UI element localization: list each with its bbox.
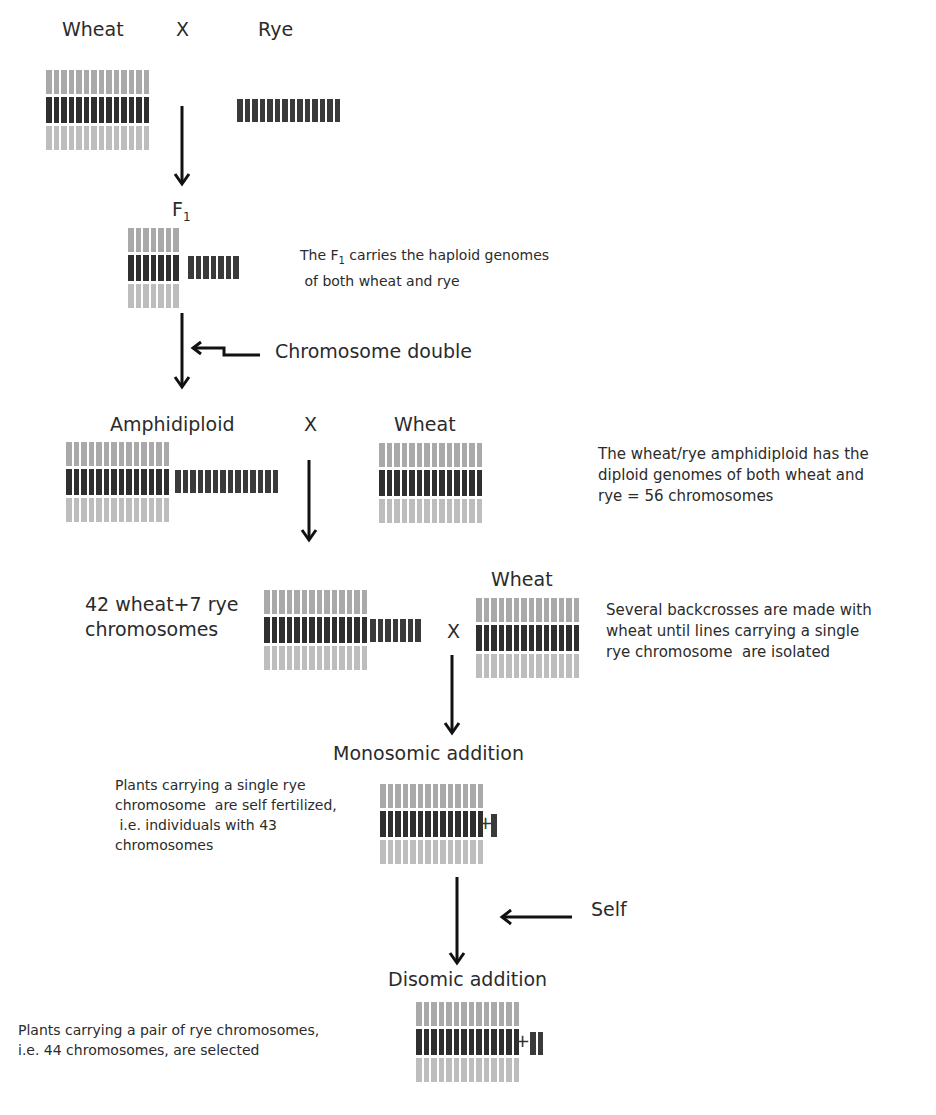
chromosome-bar [76,126,82,150]
chromosome-bar [69,70,75,94]
f1-note-pre: The F [300,247,339,263]
rye-chromosome-bar [243,470,249,493]
self-arrow-icon [500,910,574,924]
chromosome-bar [574,625,580,651]
chromosome-bar [66,442,72,466]
chromosome-bar [424,443,430,467]
chromosome-bar [416,1029,422,1055]
chromosome-bar [111,442,117,466]
chromosome-bar [499,1058,505,1082]
chromosome-bar [91,97,97,123]
chromosome-bar [126,469,132,495]
arrow-down-icon [180,106,192,190]
chromosome-bar [317,646,323,670]
chromosome-bar [294,590,300,614]
chromosome-bar [431,1002,437,1026]
chromosome-bar [302,590,308,614]
chromosome-bar [416,1058,422,1082]
chromosome-bar [156,498,162,522]
chromosome-bar [354,646,360,670]
chromosome-bar [61,97,67,123]
chromosome-bar [454,1002,460,1026]
chromosome-bar [144,70,150,94]
chromosome-bar [448,784,454,808]
chromosome-bar [156,442,162,466]
chromosome-bar [114,126,120,150]
chromosome-bar [476,1029,482,1055]
chromosome-bar [46,126,52,150]
chromosome-bar [514,1002,520,1026]
chromosome-bar [469,1002,475,1026]
chromosome-bar [287,646,293,670]
rye-chromosome-bar [378,619,384,642]
chromosome-bar [164,469,170,495]
chromosome-bar [440,784,446,808]
chromosome-bar [432,499,438,523]
chromosome-bar [46,97,52,123]
chromosome-bar [121,97,127,123]
chromosome-bar [544,598,550,622]
chromosome-bar [484,654,490,678]
chromosome-bar [455,784,461,808]
chromosome-bar [141,498,147,522]
chromosome-bar [69,97,75,123]
self-label: Self [591,898,627,920]
chromosome-bar [394,470,400,496]
chromosome-bar [347,590,353,614]
chromosome-bar [433,811,439,837]
rye-chromosome-bar [258,470,264,493]
monosomic-addition-label: Monosomic addition [333,742,524,764]
chromosome-bar [439,1058,445,1082]
chromosome-bar [264,590,270,614]
chromosome-bar [339,646,345,670]
chromosome-bar [514,598,520,622]
chromosome-bar [129,70,135,94]
chromosome-bar [409,470,415,496]
cross-symbol: X [176,18,189,40]
chromosome-bar [362,617,368,643]
chromosome-bar [164,442,170,466]
monosomic-note: Plants carrying a single rye chromosome … [115,775,337,855]
rye-chromosome-bar [530,1032,536,1055]
rye-parent-label: Rye [258,18,293,40]
chromosome-bar [461,1002,467,1026]
chromosome-bar [84,126,90,150]
chromosome-bar [499,654,505,678]
chromosome-bar [158,228,164,252]
chromosome-bar [81,442,87,466]
chromosome-bar [491,598,497,622]
chromosome-bar [416,1002,422,1026]
chromosome-bar [484,1002,490,1026]
rye-chromosome-bar [196,256,202,279]
chromosome-bar [96,469,102,495]
f1-note: The F1 carries the haploid genomes of bo… [300,245,549,291]
disomic-note: Plants carrying a pair of rye chromosome… [18,1020,319,1060]
chromosome-bar [76,97,82,123]
chromosome-bar [521,625,527,651]
chromosome-bar [478,784,484,808]
chromosome-bar [317,617,323,643]
arrow-down-icon [307,460,319,544]
f1-wheat-karyotype [128,228,179,308]
chromosome-bar [332,590,338,614]
chromosome-bar [521,598,527,622]
chromosome-bar [446,1058,452,1082]
chromosome-bar [96,498,102,522]
chromosome-bar [136,284,142,308]
chromosome-bar [387,499,393,523]
chromosome-bar [477,470,483,496]
chromosome-bar [559,654,565,678]
chromosome-bar [272,590,278,614]
chromosome-bar [521,654,527,678]
chromosome-bar [440,811,446,837]
chromosome-bar [544,654,550,678]
disomic-rye-extra [530,1032,543,1055]
chromosome-bar [99,97,105,123]
chromosome-bar [424,1002,430,1026]
chromosome-bar [499,598,505,622]
chromosome-bar [477,499,483,523]
chromosome-bar [129,97,135,123]
chromosome-bar [514,654,520,678]
rye-chromosome-bar [213,470,219,493]
chromosome-bar [439,499,445,523]
